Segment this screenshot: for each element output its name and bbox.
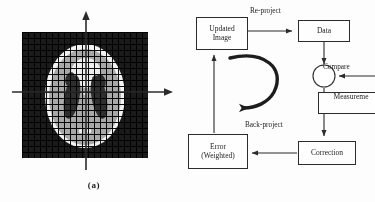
node-data: Data xyxy=(298,20,350,42)
edge-label-reproject: Re-project xyxy=(250,6,281,15)
edge-label-backproject: Back-project xyxy=(245,120,283,129)
x-axis-arrow-icon xyxy=(164,88,173,95)
node-measurements-label: Measureme xyxy=(334,93,369,101)
node-updated-image-line-2: Image xyxy=(213,34,232,42)
node-error-line-2: (Weighted) xyxy=(201,152,235,160)
phantom-image xyxy=(22,32,148,158)
node-error: Error (Weighted) xyxy=(188,134,248,169)
figure-container: (a) xyxy=(0,0,375,202)
node-measurements: Measureme xyxy=(318,92,375,114)
iteration-loop-arrow xyxy=(230,56,277,108)
y-axis-arrow-icon xyxy=(82,11,89,20)
shepp-logan-phantom-canvas xyxy=(22,32,148,158)
edge-label-compare: Compare xyxy=(323,62,350,71)
node-correction-label: Correction xyxy=(311,149,343,157)
panel-b: Updated Image Data Measureme Correction … xyxy=(188,0,375,202)
panel-a-caption: (a) xyxy=(0,180,188,190)
panel-a: (a) xyxy=(0,0,188,202)
node-correction: Correction xyxy=(298,141,356,165)
node-updated-image: Updated Image xyxy=(196,17,248,50)
node-data-label: Data xyxy=(317,27,331,35)
